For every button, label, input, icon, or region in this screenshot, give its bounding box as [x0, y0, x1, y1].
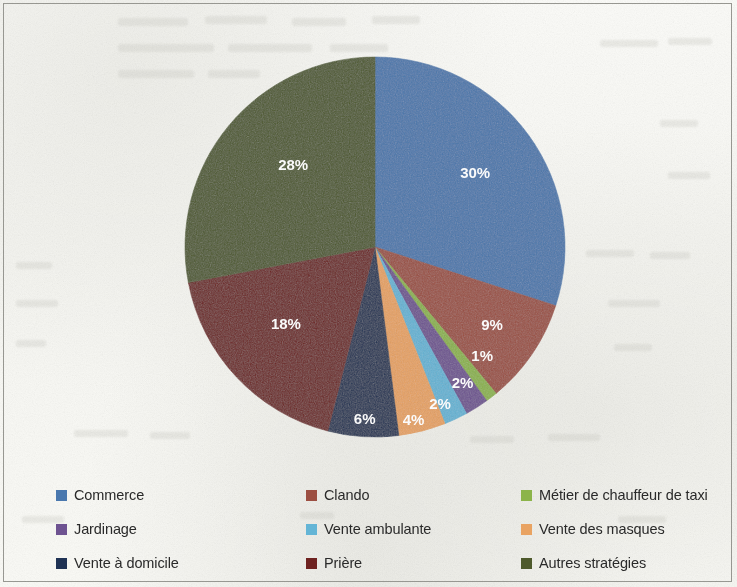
- legend-swatch-icon: [306, 490, 317, 501]
- legend-item[interactable]: Jardinage: [56, 521, 306, 537]
- legend-item[interactable]: Vente ambulante: [306, 521, 521, 537]
- pie-slice-data-label: 28%: [278, 156, 308, 173]
- pie-slice-data-label: 18%: [271, 315, 301, 332]
- pie-slices-group: [185, 57, 565, 437]
- legend-item-label: Vente à domicile: [74, 555, 179, 571]
- legend-swatch-icon: [521, 490, 532, 501]
- legend-item[interactable]: Commerce: [56, 487, 306, 503]
- pie-slice-data-label: 9%: [481, 316, 503, 333]
- pie-slice-data-label: 2%: [429, 395, 451, 412]
- pie-slice-data-label: 1%: [471, 347, 493, 364]
- legend-swatch-icon: [306, 558, 317, 569]
- legend-item-label: Vente des masques: [539, 521, 665, 537]
- legend-item[interactable]: Autres stratégies: [521, 555, 737, 571]
- legend-item-label: Vente ambulante: [324, 521, 431, 537]
- legend-item[interactable]: Métier de chauffeur de taxi: [521, 487, 737, 503]
- legend-item[interactable]: Clando: [306, 487, 521, 503]
- legend-item[interactable]: Prière: [306, 555, 521, 571]
- legend-item[interactable]: Vente à domicile: [56, 555, 306, 571]
- chart-legend: CommerceClandoMétier de chauffeur de tax…: [0, 478, 737, 578]
- legend-item-label: Prière: [324, 555, 362, 571]
- legend-item-label: Jardinage: [74, 521, 137, 537]
- legend-swatch-icon: [521, 524, 532, 535]
- legend-swatch-icon: [306, 524, 317, 535]
- legend-item-label: Autres stratégies: [539, 555, 646, 571]
- legend-swatch-icon: [56, 558, 67, 569]
- pie-slice-data-label: 6%: [354, 410, 376, 427]
- pie-chart-svg: 30%9%1%2%2%4%6%18%28%: [0, 0, 737, 470]
- legend-swatch-icon: [521, 558, 532, 569]
- legend-item[interactable]: Vente des masques: [521, 521, 737, 537]
- pie-slice-data-label: 30%: [460, 164, 490, 181]
- legend-swatch-icon: [56, 490, 67, 501]
- pie-chart: 30%9%1%2%2%4%6%18%28%: [0, 0, 737, 470]
- pie-slice-data-label: 4%: [403, 411, 425, 428]
- legend-swatch-icon: [56, 524, 67, 535]
- legend-item-label: Clando: [324, 487, 369, 503]
- legend-item-label: Commerce: [74, 487, 144, 503]
- legend-item-label: Métier de chauffeur de taxi: [539, 487, 708, 503]
- pie-slice-data-label: 2%: [452, 374, 474, 391]
